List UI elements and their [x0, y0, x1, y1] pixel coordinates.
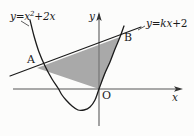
x-axis-label: x — [172, 92, 178, 103]
line-eq-slope: kx — [160, 17, 172, 29]
point-a-label: A — [27, 54, 35, 65]
curve-eq-term: 2x — [43, 10, 55, 22]
line-eq-constant: 2 — [181, 17, 187, 29]
line-equation-label: y=kx+2 — [146, 18, 187, 29]
point-b-label: B — [124, 32, 132, 43]
math-figure: y=x2+2x y=kx+2 y x A B O — [0, 0, 194, 136]
shaded-triangle-aob — [37, 37, 120, 89]
y-axis-label: y — [89, 11, 95, 22]
line-eq-plus: + — [172, 17, 181, 29]
curve-equation-label: y=x2+2x — [10, 11, 55, 22]
curve-eq-plus: + — [34, 10, 43, 22]
origin-label: O — [102, 90, 111, 101]
